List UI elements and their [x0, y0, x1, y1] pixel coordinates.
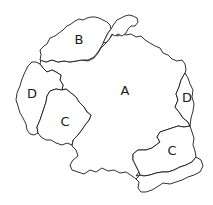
- label-d-right: D: [182, 90, 192, 105]
- label-c-right: C: [167, 143, 176, 158]
- label-b: B: [75, 32, 84, 47]
- region-map: A B C C D D: [0, 0, 213, 205]
- label-c-left: C: [60, 114, 69, 129]
- label-a: A: [121, 83, 130, 98]
- label-d-left: D: [27, 86, 37, 101]
